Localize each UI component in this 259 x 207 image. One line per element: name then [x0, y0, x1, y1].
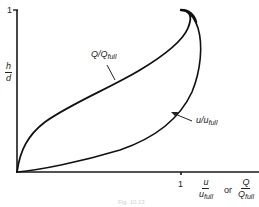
x-axis-u-den-sub: full — [204, 193, 213, 200]
x-axis-u-num: u — [202, 178, 209, 189]
q-curve-label-main: Q/Q — [91, 49, 108, 59]
q-curve-label: Q/Qfull — [91, 50, 116, 60]
x-axis-q-den-sub: full — [245, 193, 254, 200]
x-axis-label-q-frac: Q Qfull — [238, 178, 254, 200]
x-axis-u-den: ufull — [199, 189, 213, 200]
q-curve-label-sub: full — [108, 53, 117, 60]
y-axis-label-num: h — [5, 62, 12, 73]
y-axis-label-den: d — [6, 73, 11, 83]
u-label-arrow-line — [175, 114, 192, 121]
x-tick-label: 1 — [178, 180, 183, 189]
x-axis-q-den: Qfull — [238, 189, 254, 200]
q-over-qfull-curve — [17, 10, 190, 172]
y-tick-label: 1 — [7, 6, 12, 15]
y-axis-label: h d — [5, 62, 12, 83]
u-curve-label-sub: full — [209, 119, 218, 126]
u-over-ufull-curve — [17, 10, 201, 172]
u-curve-label-main: u/u — [196, 115, 209, 125]
x-axis-label-u-frac: u ufull — [199, 178, 213, 200]
u-label-arrowhead — [171, 112, 178, 117]
chart-canvas — [0, 0, 259, 207]
u-curve-label: u/ufull — [196, 116, 217, 126]
q-label-leader — [107, 65, 115, 80]
x-axis-q-num: Q — [241, 178, 250, 189]
figure-caption: Fig. 10.13 — [118, 199, 145, 205]
curve-top-hook — [181, 10, 196, 22]
x-axis-q-den-main: Q — [238, 189, 245, 199]
x-axis-label-or: or — [224, 186, 232, 195]
